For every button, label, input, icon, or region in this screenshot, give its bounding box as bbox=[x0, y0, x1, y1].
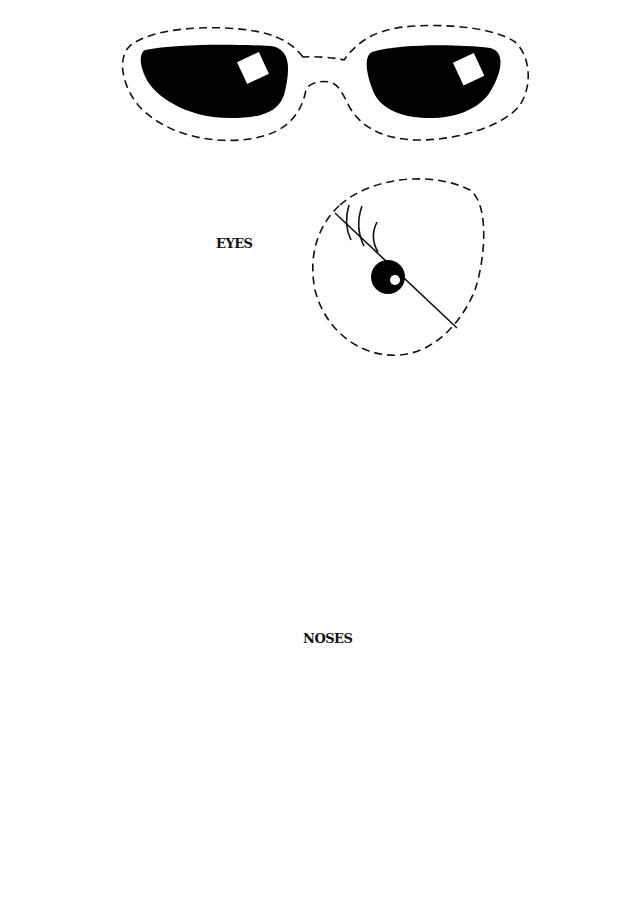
sunglasses-cutout[interactable] bbox=[123, 26, 529, 141]
cutout-template-page: EYES NOSES bbox=[0, 0, 637, 901]
eyes-section-label: EYES bbox=[216, 236, 253, 251]
noses-section-label: NOSES bbox=[303, 631, 352, 646]
winking-eye-cutout-1[interactable] bbox=[313, 179, 484, 355]
cutout-shapes bbox=[0, 0, 637, 901]
